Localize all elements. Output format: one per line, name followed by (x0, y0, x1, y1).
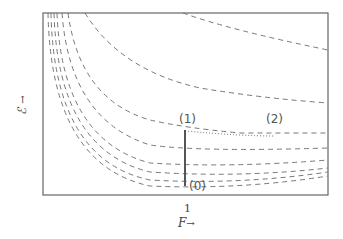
label-point-2: (2) (266, 112, 283, 126)
x-tick-label: 1 (184, 202, 191, 215)
label-point-0: (0) (189, 179, 206, 193)
label-point-1: (1) (179, 112, 196, 126)
x-arrow-icon: → (186, 218, 194, 229)
y-arrow-icon: → (17, 95, 28, 103)
isoline-curves (48, 13, 328, 187)
y-axis-label: ℰ → (15, 95, 29, 114)
x-axis-label: F→ (178, 216, 195, 230)
y-label-text: ℰ (15, 108, 29, 115)
diagram-canvas (0, 0, 343, 239)
